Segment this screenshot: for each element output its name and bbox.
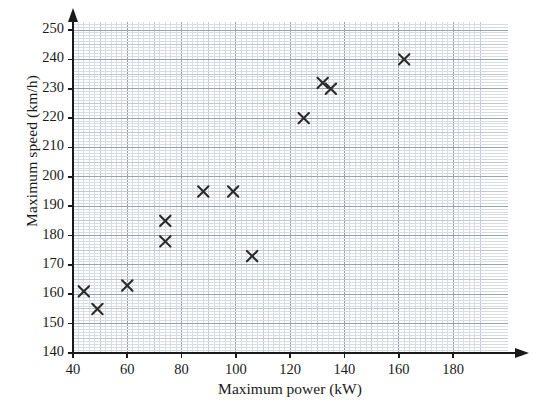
plot-canvas (0, 0, 544, 415)
y-tick-label: 230 (20, 79, 64, 96)
y-tick-label: 250 (20, 20, 64, 37)
y-tick-label: 200 (20, 167, 64, 184)
x-tick-label: 40 (53, 361, 93, 378)
x-tick-label: 140 (324, 361, 364, 378)
x-tick-label: 100 (216, 361, 256, 378)
y-tick-label: 170 (20, 255, 64, 272)
y-axis-arrowhead (68, 8, 78, 22)
x-tick-label: 180 (433, 361, 473, 378)
y-tick-label: 240 (20, 49, 64, 66)
x-tick-label: 160 (379, 361, 419, 378)
x-axis-arrowhead (515, 348, 529, 358)
x-axis-title: Maximum power (kW) (160, 380, 420, 398)
x-tick-label: 80 (162, 361, 202, 378)
y-tick-label: 210 (20, 137, 64, 154)
y-tick-label: 220 (20, 108, 64, 125)
x-tick-label: 120 (270, 361, 310, 378)
y-tick-label: 140 (20, 343, 64, 360)
y-tick-label: 160 (20, 284, 64, 301)
y-tick-label: 190 (20, 196, 64, 213)
y-tick-label: 150 (20, 314, 64, 331)
x-tick-label: 60 (107, 361, 147, 378)
scatter-plot-figure: Maximum speed (km/h) Maximum power (kW) … (0, 0, 544, 415)
y-tick-label: 180 (20, 226, 64, 243)
